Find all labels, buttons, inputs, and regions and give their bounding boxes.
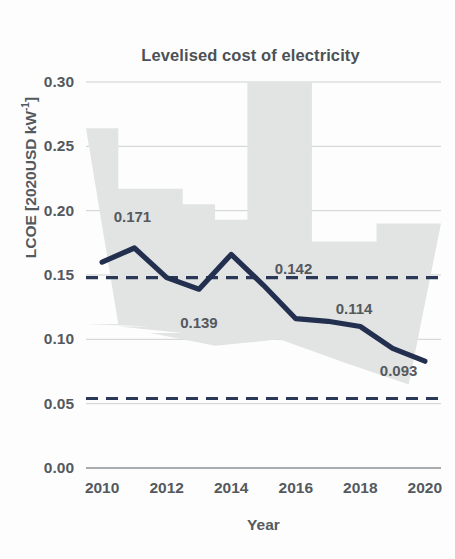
data-point-label: 0.093 [380, 361, 418, 378]
chart-figure: Levelised cost of electricity LCOE [2020… [0, 0, 455, 559]
data-point-label: 0.139 [180, 313, 218, 330]
data-point-label: 0.142 [275, 259, 313, 276]
data-point-label: 0.171 [114, 208, 152, 225]
data-point-label: 0.114 [336, 299, 373, 316]
plot-area [0, 0, 455, 559]
